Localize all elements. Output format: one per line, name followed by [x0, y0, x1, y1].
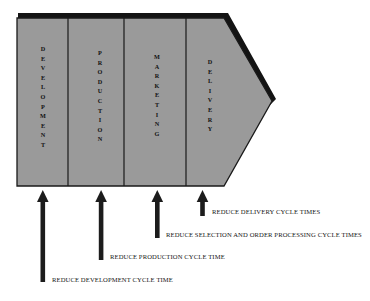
stage-letter: O: [98, 125, 103, 135]
stage-letter: O: [41, 92, 46, 102]
stage-letter: C: [98, 96, 102, 106]
stage-letter: A: [155, 62, 159, 72]
stage-label-production: P R O D U C T I O N: [93, 48, 107, 144]
arrow-production: [95, 190, 107, 260]
arrow-development: [37, 190, 49, 282]
stage-letter: U: [98, 86, 102, 96]
stage-letter: V: [41, 63, 45, 73]
stage-letter: Y: [208, 124, 212, 134]
stage-label-development: D E V E L O P M E N T: [36, 44, 50, 150]
stage-letter: E: [41, 73, 45, 83]
arrow-delivery: [197, 190, 209, 216]
stage-letter: L: [208, 76, 212, 86]
stage-letter: M: [40, 111, 46, 121]
stage-letter: I: [156, 110, 158, 120]
stage-label-delivery: D E L I V E R Y: [203, 57, 217, 134]
stage-letter: R: [208, 115, 212, 125]
stage-letter: O: [98, 67, 103, 77]
stage-letter: T: [155, 100, 159, 110]
caption-selection: REDUCE SELECTION AND ORDER PROCESSING CY…: [166, 232, 362, 239]
stage-letter: N: [98, 134, 102, 144]
stage-letter: R: [98, 58, 102, 68]
banner-body: [17, 18, 272, 186]
stage-letter: I: [209, 86, 211, 96]
stage-letter: M: [154, 52, 160, 62]
caption-delivery: REDUCE DELIVERY CYCLE TIMES: [212, 209, 320, 216]
value-chain-diagram: D E V E L O P M E N T P R O D U C T I O …: [0, 0, 370, 301]
stage-letter: T: [98, 106, 102, 116]
stage-letter: P: [41, 102, 45, 112]
stage-letter: R: [155, 71, 159, 81]
stage-letter: T: [41, 140, 45, 150]
stage-letter: I: [99, 115, 101, 125]
stage-letter: E: [41, 121, 45, 131]
stage-letter: D: [98, 77, 102, 87]
stage-letter: P: [98, 48, 102, 58]
stage-letter: N: [41, 130, 45, 140]
caption-production: REDUCE PRODUCTION CYCLE TIME: [110, 254, 225, 261]
stage-letter: E: [41, 54, 45, 64]
stage-letter: E: [155, 90, 159, 100]
stage-label-marketing: M A R K E T I N G: [150, 52, 164, 138]
stage-letter: L: [41, 82, 45, 92]
stage-letter: G: [155, 129, 160, 139]
arrow-marketing: [152, 190, 164, 238]
stage-letter: E: [208, 67, 212, 77]
stage-letter: D: [208, 57, 212, 67]
stage-letter: K: [155, 81, 160, 91]
stage-letter: V: [208, 95, 212, 105]
stage-letter: E: [208, 105, 212, 115]
stage-letter: N: [155, 119, 159, 129]
stage-letter: D: [41, 44, 45, 54]
caption-development: REDUCE DEVELOPMENT CYCLE TIME: [52, 277, 173, 284]
